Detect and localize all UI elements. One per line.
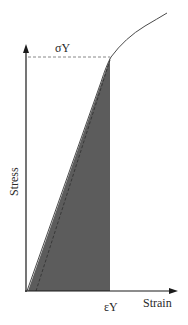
yield-stress-label: σY bbox=[55, 41, 70, 55]
strain-energy-area bbox=[28, 58, 110, 291]
stress-strain-diagram: σY εY Strain Stress bbox=[0, 0, 188, 325]
x-axis-label: Strain bbox=[143, 296, 172, 310]
y-axis-label: Stress bbox=[7, 167, 21, 196]
yield-strain-label: εY bbox=[104, 300, 118, 314]
y-axis-arrow-icon bbox=[23, 44, 29, 53]
x-axis-arrow-icon bbox=[169, 288, 178, 294]
